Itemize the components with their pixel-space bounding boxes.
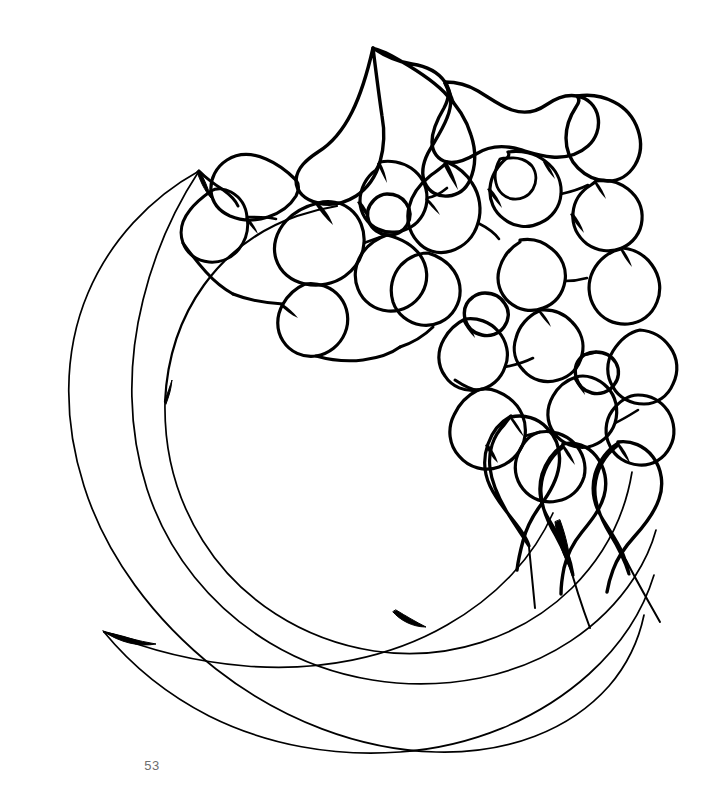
page-number: 53	[0, 758, 509, 773]
coloring-artwork	[0, 0, 714, 811]
page-canvas: 53	[0, 0, 714, 811]
